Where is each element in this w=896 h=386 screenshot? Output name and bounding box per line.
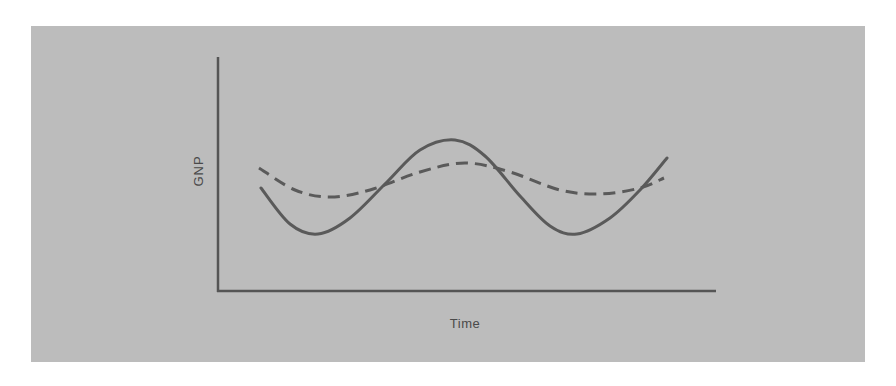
y-axis-label: GNP bbox=[190, 152, 206, 190]
y-axis-label-text: GNP bbox=[191, 155, 206, 186]
dashed-series-line bbox=[259, 163, 664, 197]
x-axis-label: Time bbox=[420, 316, 510, 331]
solid-series-line bbox=[261, 140, 667, 234]
